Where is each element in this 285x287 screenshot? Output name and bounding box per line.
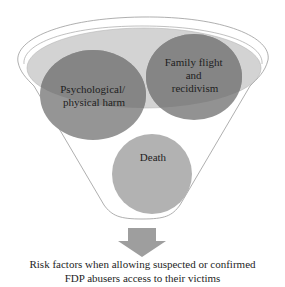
death-label: Death: [140, 151, 167, 163]
caption-line-1: Risk factors when allowing suspected or …: [0, 258, 285, 272]
death-circle: [112, 134, 192, 214]
funnel-diagram: Psychological/ physical harm Family flig…: [0, 0, 285, 287]
diagram-caption: Risk factors when allowing suspected or …: [0, 258, 285, 285]
caption-line-2: FDP abusers access to their victims: [0, 272, 285, 286]
down-arrow-icon: [118, 228, 166, 257]
psych-harm-label: Psychological/ physical harm: [60, 83, 128, 108]
